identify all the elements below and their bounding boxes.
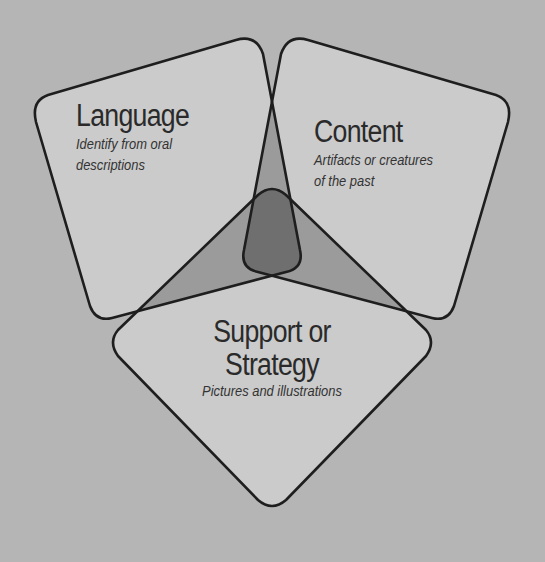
language-subtitle-line-1: Identify from oral	[76, 133, 189, 154]
content-subtitle-line-2: of the past	[314, 170, 433, 191]
language-label: Language Identify from oral descriptions	[76, 101, 208, 175]
content-title: Content	[314, 117, 433, 147]
support-title-line-1: Support or	[186, 315, 358, 348]
support-subtitle: Pictures and illustrations	[186, 382, 358, 400]
support-label: Support or Strategy Pictures and illustr…	[172, 315, 372, 400]
venn-diagram	[0, 0, 545, 562]
language-subtitle-line-2: descriptions	[76, 154, 189, 175]
language-title: Language	[76, 101, 189, 131]
content-subtitle-line-1: Artifacts or creatures	[314, 149, 433, 170]
support-title-line-2: Strategy	[186, 348, 358, 381]
content-label: Content Artifacts or creatures of the pa…	[314, 117, 452, 191]
